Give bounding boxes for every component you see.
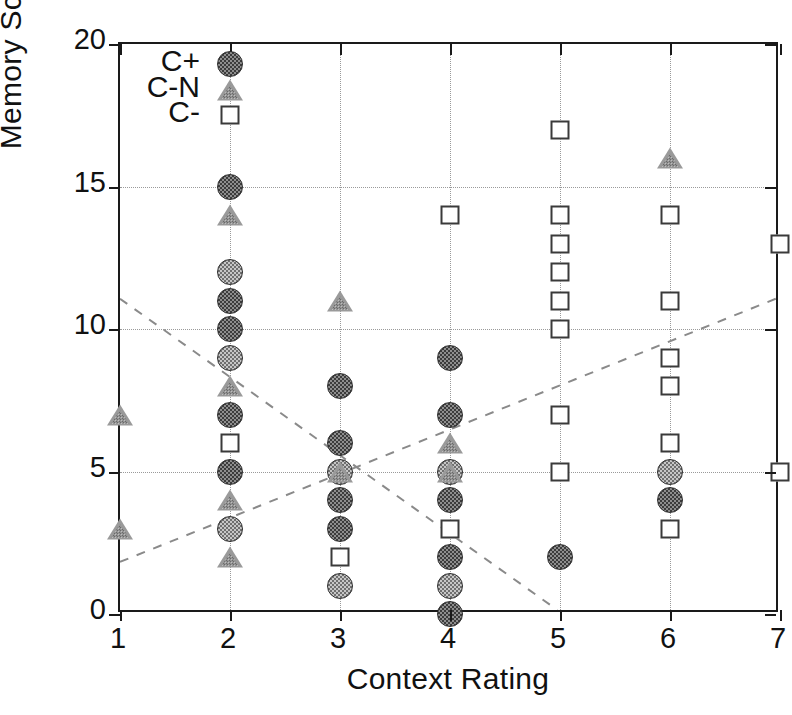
x-tick-label: 1 <box>93 622 143 655</box>
marker-square <box>661 377 680 396</box>
legend-marker-filled-circle <box>217 51 243 77</box>
y-tick-mark <box>765 329 776 331</box>
y-tick-mark <box>765 614 776 616</box>
marker-square <box>221 434 240 453</box>
marker-square <box>661 291 680 310</box>
marker-triangle <box>217 490 243 511</box>
marker-square <box>331 548 350 567</box>
x-tick-label: 7 <box>753 622 792 655</box>
marker-square <box>441 519 460 538</box>
x-tick-mark <box>560 44 562 55</box>
x-tick-mark <box>340 610 342 621</box>
marker-triangle <box>657 148 683 169</box>
marker-square <box>771 234 790 253</box>
y-tick-mark <box>109 614 120 616</box>
y-tick-label: 5 <box>58 451 106 484</box>
marker-triangle <box>217 547 243 568</box>
x-tick-label: 6 <box>643 622 693 655</box>
marker-circle <box>217 316 243 342</box>
x-tick-mark <box>230 610 232 621</box>
marker-circle <box>217 288 243 314</box>
marker-square <box>551 462 570 481</box>
x-tick-mark <box>670 610 672 621</box>
marker-square <box>551 234 570 253</box>
marker-triangle <box>217 205 243 226</box>
x-tick-mark <box>780 44 782 55</box>
legend-label-c-: C- <box>70 95 200 129</box>
marker-circle <box>217 516 243 542</box>
marker-circle <box>327 430 353 456</box>
marker-circle <box>437 573 463 599</box>
marker-circle <box>437 402 463 428</box>
legend-marker-open-square <box>221 106 240 125</box>
y-tick-mark <box>109 329 120 331</box>
x-tick-label: 5 <box>533 622 583 655</box>
marker-square <box>661 434 680 453</box>
marker-square <box>661 519 680 538</box>
x-tick-label: 3 <box>313 622 363 655</box>
y-tick-mark <box>765 187 776 189</box>
marker-circle <box>217 174 243 200</box>
x-tick-label: 2 <box>203 622 253 655</box>
legend-marker-filled-triangle <box>217 79 243 100</box>
y-axis-title: Memory Score <box>0 0 28 215</box>
x-tick-mark <box>780 610 782 621</box>
marker-circle <box>327 487 353 513</box>
marker-circle <box>547 544 573 570</box>
marker-triangle <box>107 404 133 425</box>
x-tick-mark <box>670 44 672 55</box>
marker-triangle <box>327 290 353 311</box>
marker-square <box>551 120 570 139</box>
marker-square <box>551 320 570 339</box>
y-tick-mark <box>109 472 120 474</box>
marker-square <box>441 206 460 225</box>
y-tick-mark <box>765 44 776 46</box>
marker-square <box>551 263 570 282</box>
y-tick-label: 20 <box>58 23 106 56</box>
scatter-plot-figure: Memory Score Context Rating C+C-NC- 0510… <box>0 0 792 715</box>
marker-square <box>551 405 570 424</box>
marker-circle <box>437 345 463 371</box>
y-tick-label: 15 <box>58 166 106 199</box>
marker-circle <box>217 459 243 485</box>
marker-triangle <box>107 518 133 539</box>
x-tick-mark <box>120 610 122 621</box>
y-tick-label: 10 <box>58 308 106 341</box>
marker-circle <box>437 487 463 513</box>
x-tick-mark <box>450 44 452 55</box>
plot-area: C+C-NC- <box>118 42 778 612</box>
marker-circle <box>327 573 353 599</box>
marker-circle <box>437 544 463 570</box>
marker-triangle <box>437 461 463 482</box>
marker-circle <box>217 402 243 428</box>
y-tick-mark <box>765 472 776 474</box>
marker-circle <box>657 459 683 485</box>
marker-circle <box>657 487 683 513</box>
marker-square <box>661 348 680 367</box>
marker-circle <box>217 259 243 285</box>
marker-circle <box>327 373 353 399</box>
marker-square <box>551 206 570 225</box>
marker-triangle <box>327 461 353 482</box>
marker-circle <box>217 345 243 371</box>
marker-square <box>661 206 680 225</box>
marker-triangle <box>217 376 243 397</box>
x-tick-mark <box>560 610 562 621</box>
marker-square <box>551 291 570 310</box>
x-tick-label: 4 <box>423 622 473 655</box>
marker-triangle <box>437 433 463 454</box>
x-axis-title: Context Rating <box>118 662 778 696</box>
x-tick-mark <box>340 44 342 55</box>
marker-circle <box>327 516 353 542</box>
x-tick-mark <box>450 610 452 621</box>
y-tick-mark <box>109 187 120 189</box>
